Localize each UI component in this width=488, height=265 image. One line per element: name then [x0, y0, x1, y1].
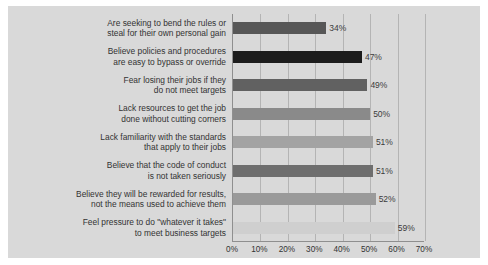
x-tick-label: 30% [306, 245, 322, 254]
bar [233, 222, 395, 234]
category-label-line: steal for their own personal gain [107, 28, 226, 39]
category-label-line: that apply to their jobs [144, 142, 226, 153]
bar [233, 165, 373, 177]
bar-value-label: 34% [326, 23, 346, 33]
plot-area: 34%47%49%50%51%51%52%59% [232, 14, 424, 242]
bar-row: 59% [233, 214, 424, 243]
gridline [425, 14, 426, 241]
bar-value-label: 52% [376, 194, 396, 204]
bar-row: 51% [233, 157, 424, 186]
x-tick-label: 40% [334, 245, 350, 254]
bar [233, 79, 367, 91]
bar [233, 22, 326, 34]
category-label-line: to meet business targets [135, 228, 226, 239]
bar-value-label: 49% [367, 80, 387, 90]
category-label-line: Believe they will be rewarded for result… [76, 189, 226, 200]
bar-value-label: 50% [370, 109, 390, 119]
category-label-line: are easy to bypass or override [113, 57, 226, 68]
category-label: Believe that the code of conductis not t… [8, 157, 232, 186]
category-label: Fear losing their jobs if theydo not mee… [8, 71, 232, 100]
x-tick-label: 10% [251, 245, 267, 254]
category-label-line: done without cutting corners [121, 114, 226, 125]
category-label-line: is not taken seriously [148, 171, 226, 182]
x-axis-tick-labels: 0%10%20%30%40%50%60%70% [232, 245, 424, 259]
category-label-line: do not meet targets [154, 85, 226, 96]
category-axis-labels: Are seeking to bend the rules orsteal fo… [8, 14, 232, 242]
category-label-line: Feel pressure to do "whatever it takes" [83, 217, 226, 228]
bar-value-label: 51% [373, 166, 393, 176]
category-label: Lack resources to get the jobdone withou… [8, 100, 232, 129]
x-tick-label: 20% [279, 245, 295, 254]
bar-row: 51% [233, 128, 424, 157]
category-label-line: Lack resources to get the job [118, 103, 226, 114]
x-tick-label: 70% [416, 245, 432, 254]
category-label-line: Believe policies and procedures [108, 46, 226, 57]
bar-row: 49% [233, 71, 424, 100]
bar-chart-figure: Are seeking to bend the rules orsteal fo… [8, 6, 480, 258]
category-label-line: Are seeking to bend the rules or [107, 18, 226, 29]
category-label-line: Lack familiarity with the standards [100, 132, 226, 143]
bar [233, 51, 362, 63]
bar-value-label: 47% [362, 52, 382, 62]
bar-row: 47% [233, 43, 424, 72]
bar [233, 193, 376, 205]
category-label: Feel pressure to do "whatever it takes"t… [8, 214, 232, 243]
bar [233, 108, 370, 120]
x-tick-label: 0% [226, 245, 238, 254]
bar-row: 52% [233, 185, 424, 214]
bar-row: 50% [233, 100, 424, 129]
category-label-line: Believe that the code of conduct [107, 160, 226, 171]
category-label-line: not the means used to achieve them [91, 199, 226, 210]
category-label: Are seeking to bend the rules orsteal fo… [8, 14, 232, 43]
category-label: Lack familiarity with the standardsthat … [8, 128, 232, 157]
bar-value-label: 59% [395, 223, 415, 233]
bar [233, 136, 373, 148]
category-label-line: Fear losing their jobs if they [124, 75, 226, 86]
x-tick-label: 60% [388, 245, 404, 254]
category-label: Believe they will be rewarded for result… [8, 185, 232, 214]
bar-row: 34% [233, 14, 424, 43]
category-label: Believe policies and proceduresare easy … [8, 43, 232, 72]
bar-value-label: 51% [373, 137, 393, 147]
x-tick-label: 50% [361, 245, 377, 254]
